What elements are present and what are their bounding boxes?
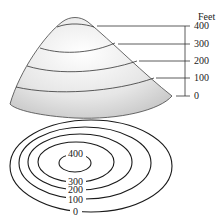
contour-label-100: 100 bbox=[68, 194, 83, 205]
contour-0 bbox=[10, 120, 172, 212]
contour-label-0: 0 bbox=[73, 206, 78, 217]
hill-contour-diagram: Feet 400 300 200 100 0 400 300 200 100 0 bbox=[0, 0, 220, 220]
scale-tick-300: 300 bbox=[194, 38, 209, 49]
scale-tick-100: 100 bbox=[194, 72, 209, 83]
contour-label-400: 400 bbox=[68, 148, 83, 159]
contour-map bbox=[10, 120, 172, 212]
scale-tick-200: 200 bbox=[194, 55, 209, 66]
scale-tick-400: 400 bbox=[194, 20, 209, 31]
hill-3d bbox=[10, 18, 172, 119]
contour-labels: 400 300 200 100 0 bbox=[66, 148, 86, 217]
scale-tick-0: 0 bbox=[194, 90, 199, 101]
